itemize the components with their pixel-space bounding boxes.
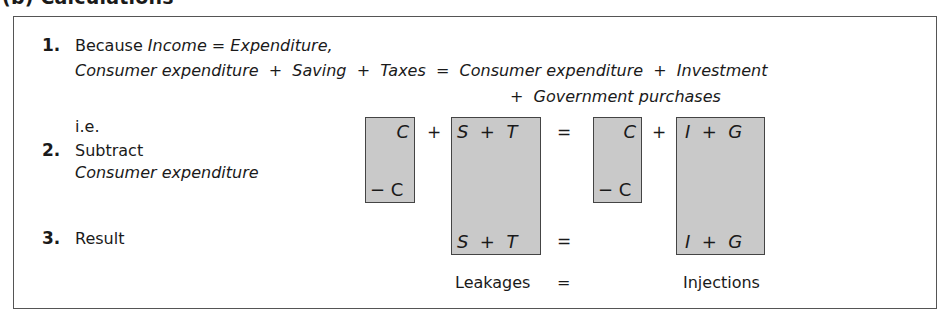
s-plus-t-bottom: S + T [457,231,517,252]
plus-sign-2: + [652,122,666,142]
c-symbol: C [623,121,636,142]
equals-sign-2: = [557,231,571,251]
leakages-box: S + T S + T [451,117,541,255]
leakages-label: Leakages [455,273,530,292]
because-text: Because [75,36,143,55]
figure-title: (b) Calculations [2,0,174,8]
step-1-line-2: Consumer expenditure + Saving + Taxes = … [75,61,767,80]
injections-label: Injections [683,273,760,292]
step-3-label: Result [75,229,124,248]
i-plus-g-bottom: I + G [685,231,742,252]
minus-c-symbol: − C [370,179,403,200]
c-symbol: C [396,121,409,142]
income-term: Income [148,36,207,55]
step-2-sublabel: Consumer expenditure [75,163,259,182]
step-1-line-3: + Government purchases [510,87,721,106]
minus-c-symbol: − C [598,179,631,200]
consumer-expenditure-box-right: C − C [593,117,642,203]
expenditure-term: Expenditure, [230,36,332,55]
ie-label: i.e. [75,117,99,136]
injections-box: I + G I + G [676,117,765,255]
i-plus-g-top: I + G [685,121,742,142]
step-2-label: Subtract [75,141,143,160]
equals-sign: = [212,36,225,55]
step-1-number: 1. [42,35,60,55]
leakages-injections-equals: = [557,273,570,292]
plus-sign-1: + [427,122,441,142]
consumer-expenditure-box-left: C − C [365,117,415,203]
equals-sign-1: = [557,122,571,142]
s-plus-t-top: S + T [457,121,517,142]
step-1-line-1: Because Income = Expenditure, [75,36,333,55]
step-3-number: 3. [42,228,60,248]
step-2-number: 2. [42,140,60,160]
